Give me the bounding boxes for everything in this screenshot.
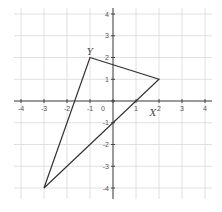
- x-tick-label: -1: [87, 105, 93, 112]
- coordinate-plane: -4-3-2-1012344321-1-2-3-4 YX: [0, 0, 222, 212]
- x-tick-label: 3: [180, 105, 184, 112]
- vertex-label-x: X: [149, 108, 157, 118]
- y-tick-label: -1: [103, 119, 109, 126]
- x-tick-label: -3: [41, 105, 47, 112]
- x-tick-label: 4: [203, 105, 207, 112]
- vertex-label-y: Y: [87, 47, 94, 57]
- x-tick-label: -4: [18, 105, 24, 112]
- plot-svg: -4-3-2-1012344321-1-2-3-4 YX: [0, 0, 222, 212]
- y-tick-label: -3: [103, 163, 109, 170]
- y-tick-label: 3: [105, 32, 109, 39]
- y-tick-label: 2: [105, 54, 109, 61]
- x-tick-label: 0: [101, 105, 105, 112]
- y-tick-label: -4: [103, 185, 109, 192]
- x-tick-label: -2: [64, 105, 70, 112]
- y-tick-label: -2: [103, 141, 109, 148]
- x-tick-label: 1: [134, 105, 138, 112]
- y-tick-label: 1: [105, 76, 109, 83]
- y-tick-label: 4: [105, 11, 109, 18]
- x-tick-label: 2: [157, 105, 161, 112]
